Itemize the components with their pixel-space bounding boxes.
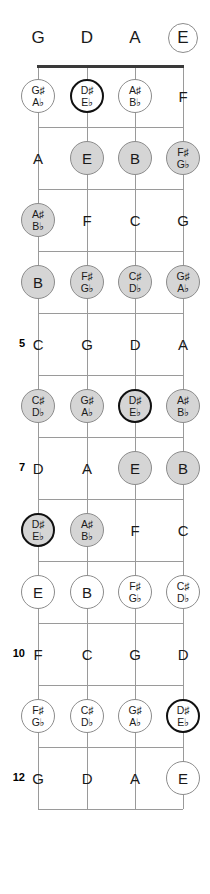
note-name-primary: B: [33, 275, 43, 290]
note-name-enharmonic: G♭: [81, 283, 94, 294]
note-name-primary: F: [83, 213, 92, 228]
note-marker-d-fret-3[interactable]: F: [70, 203, 104, 237]
note-marker-a-fret-2[interactable]: B: [118, 141, 152, 175]
note-marker-a-fret-10[interactable]: G: [118, 637, 152, 671]
note-marker-d-fret-7[interactable]: A: [70, 451, 104, 485]
note-name-enharmonic: B♭: [129, 97, 141, 108]
note-name-primary: G♯: [80, 395, 93, 406]
note-marker-a-fret-4[interactable]: C♯D♭: [118, 265, 152, 299]
note-name-primary: A♯: [177, 395, 189, 406]
note-name-enharmonic: G♭: [129, 593, 142, 604]
fret-line-7: [38, 499, 183, 500]
note-name-primary: G♯: [176, 271, 189, 282]
note-name-primary: F♯: [129, 581, 140, 592]
note-marker-d-fret-8[interactable]: A♯B♭: [70, 513, 104, 547]
note-name-enharmonic: B♭: [81, 531, 93, 542]
note-marker-g-fret-8[interactable]: D♯E♭: [21, 513, 55, 547]
fret-line-12: [38, 809, 183, 810]
note-marker-e-fret-8[interactable]: C: [166, 513, 200, 547]
note-name-primary: C♯: [81, 705, 93, 716]
note-marker-e-fret-2[interactable]: F♯G♭: [166, 141, 200, 175]
note-marker-e-fret-11[interactable]: D♯E♭: [166, 699, 200, 733]
note-name-primary: D♯: [129, 395, 141, 406]
note-name-primary: E: [130, 461, 140, 476]
note-marker-d-fret-12[interactable]: D: [70, 761, 104, 795]
fret-line-6: [38, 437, 183, 438]
note-name-enharmonic: E♭: [32, 531, 44, 542]
note-marker-a-fret-12[interactable]: A: [118, 761, 152, 795]
note-name-primary: D♯: [32, 519, 44, 530]
note-marker-g-fret-3[interactable]: A♯B♭: [21, 203, 55, 237]
fret-line-4: [38, 313, 183, 314]
note-marker-e-fret-12[interactable]: E: [166, 761, 200, 795]
note-marker-d-fret-10[interactable]: C: [70, 637, 104, 671]
note-marker-a-fret-9[interactable]: F♯G♭: [118, 575, 152, 609]
fret-line-10: [38, 685, 183, 686]
note-name-primary: C: [178, 523, 189, 538]
open-string-label-d: D: [70, 23, 104, 53]
note-name-primary: G: [129, 647, 140, 662]
note-marker-g-fret-11[interactable]: F♯G♭: [21, 699, 55, 733]
note-name-enharmonic: G♭: [32, 717, 45, 728]
fret-line-5: [38, 375, 183, 376]
note-marker-d-fret-9[interactable]: B: [70, 575, 104, 609]
note-marker-g-fret-4[interactable]: B: [21, 265, 55, 299]
note-marker-e-fret-4[interactable]: G♯A♭: [166, 265, 200, 299]
note-marker-e-fret-3[interactable]: G: [166, 203, 200, 237]
note-name-enharmonic: D♭: [177, 593, 189, 604]
note-name-primary: G♯: [128, 705, 141, 716]
fret-line-11: [38, 747, 183, 748]
note-name-enharmonic: G♭: [177, 159, 190, 170]
note-marker-e-fret-10[interactable]: D: [166, 637, 200, 671]
note-marker-d-fret-2[interactable]: E: [70, 141, 104, 175]
note-name-primary: F♯: [81, 271, 92, 282]
note-name-primary: D: [33, 461, 44, 476]
note-marker-d-fret-1[interactable]: D♯E♭: [70, 79, 104, 113]
note-marker-a-fret-11[interactable]: G♯A♭: [118, 699, 152, 733]
note-marker-g-fret-2[interactable]: A: [21, 141, 55, 175]
note-name-primary: C♯: [32, 395, 44, 406]
note-marker-e-fret-5[interactable]: A: [166, 327, 200, 361]
note-name-primary: C♯: [177, 581, 189, 592]
note-name-primary: A: [130, 771, 140, 786]
note-marker-g-fret-12[interactable]: G: [21, 761, 55, 795]
string-line-e: [183, 65, 184, 809]
note-marker-a-fret-8[interactable]: F: [118, 513, 152, 547]
note-name-primary: F: [34, 647, 43, 662]
fret-line-2: [38, 189, 183, 190]
note-marker-a-fret-3[interactable]: C: [118, 203, 152, 237]
note-marker-g-fret-5[interactable]: C: [21, 327, 55, 361]
note-marker-e-fret-1[interactable]: F: [166, 79, 200, 113]
open-string-label-e: E: [168, 23, 198, 53]
note-marker-g-fret-7[interactable]: D: [21, 451, 55, 485]
note-marker-a-fret-6[interactable]: D♯E♭: [118, 389, 152, 423]
note-marker-d-fret-4[interactable]: F♯G♭: [70, 265, 104, 299]
note-marker-g-fret-6[interactable]: C♯D♭: [21, 389, 55, 423]
note-marker-a-fret-1[interactable]: A♯B♭: [118, 79, 152, 113]
note-name-primary: D♯: [81, 85, 93, 96]
note-marker-e-fret-9[interactable]: C♯D♭: [166, 575, 200, 609]
note-marker-d-fret-6[interactable]: G♯A♭: [70, 389, 104, 423]
note-name-enharmonic: D♭: [81, 717, 93, 728]
note-marker-d-fret-5[interactable]: G: [70, 327, 104, 361]
fret-line-9: [38, 623, 183, 624]
note-name-enharmonic: B♭: [177, 407, 189, 418]
note-name-enharmonic: B♭: [32, 221, 44, 232]
note-name-enharmonic: E♭: [129, 407, 141, 418]
note-marker-g-fret-9[interactable]: E: [21, 575, 55, 609]
note-marker-g-fret-1[interactable]: G♯A♭: [21, 79, 55, 113]
note-marker-g-fret-10[interactable]: F: [21, 637, 55, 671]
note-name-primary: B: [82, 585, 92, 600]
note-name-primary: D: [82, 771, 93, 786]
note-marker-a-fret-5[interactable]: D: [118, 327, 152, 361]
note-marker-e-fret-7[interactable]: B: [166, 451, 200, 485]
note-name-primary: E: [178, 771, 188, 786]
note-name-primary: C♯: [129, 271, 141, 282]
note-marker-e-fret-6[interactable]: A♯B♭: [166, 389, 200, 423]
note-name-enharmonic: A♭: [177, 283, 189, 294]
note-marker-d-fret-11[interactable]: C♯D♭: [70, 699, 104, 733]
note-marker-a-fret-7[interactable]: E: [118, 451, 152, 485]
note-name-primary: G: [32, 771, 43, 786]
note-name-primary: F♯: [177, 147, 188, 158]
note-name-primary: E: [33, 585, 43, 600]
